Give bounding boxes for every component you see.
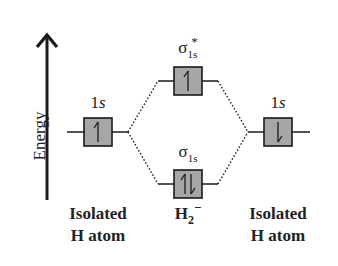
label-number: 1 xyxy=(270,93,279,112)
subscript: 1s xyxy=(188,152,198,164)
subscript: 1s xyxy=(187,48,197,60)
label-orbital-letter: s xyxy=(279,93,286,112)
sigma-label: σ1s xyxy=(158,142,218,162)
sigma-star-orbital xyxy=(158,67,218,95)
molecule-subscript: 2 xyxy=(188,213,194,227)
molecule-charge: − xyxy=(194,200,201,215)
sigma-star-label: σ1s* xyxy=(158,38,218,58)
label-line1: Isolated xyxy=(228,203,328,225)
right-1s-orbital xyxy=(248,118,310,146)
left-column-label: Isolated H atom xyxy=(48,203,148,247)
left-1s-label: 1s xyxy=(68,93,128,113)
molecule-symbol: H xyxy=(175,204,188,223)
sigma-symbol: σ xyxy=(179,142,188,161)
label-orbital-letter: s xyxy=(99,93,106,112)
label-line2: H atom xyxy=(48,225,148,247)
sigma-orbital xyxy=(158,170,218,198)
superscript-star: * xyxy=(191,34,198,49)
center-column-label: H2− xyxy=(158,203,218,226)
correlation-lines xyxy=(128,81,248,184)
right-1s-label: 1s xyxy=(248,93,308,113)
label-line2: H atom xyxy=(228,225,328,247)
right-column-label: Isolated H atom xyxy=(228,203,328,247)
label-number: 1 xyxy=(90,93,99,112)
energy-axis-label: Energy xyxy=(30,106,50,166)
label-line1: Isolated xyxy=(48,203,148,225)
left-1s-orbital xyxy=(67,118,128,146)
